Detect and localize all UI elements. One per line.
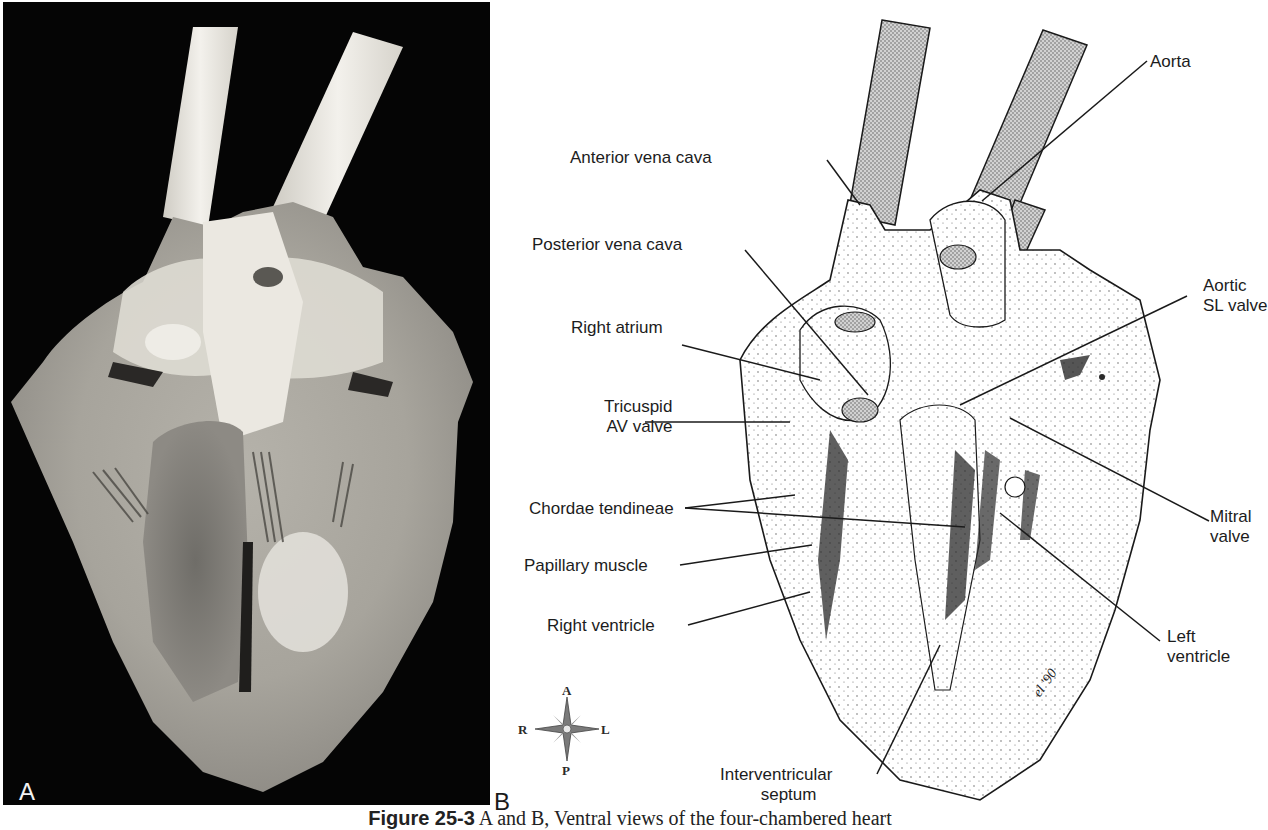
label-interventricular-septum: Interventricular septum (720, 765, 832, 805)
label-mitral-line1: Mitral (1210, 507, 1252, 527)
label-aortic-line1: Aortic (1203, 276, 1268, 296)
label-right-atrium: Right atrium (571, 318, 663, 338)
label-interventricular-line2: septum (720, 785, 832, 805)
drawing-panel-b: Anterior vena cava Posterior vena cava R… (490, 0, 1260, 805)
label-papillary-muscle: Papillary muscle (524, 556, 648, 576)
photo-panel-a: A (3, 2, 490, 805)
label-posterior-vena-cava: Posterior vena cava (532, 235, 682, 255)
label-mitral-line2: valve (1210, 527, 1252, 547)
compass-anterior: A (562, 683, 571, 699)
compass-star (535, 697, 599, 761)
label-aorta: Aorta (1150, 52, 1191, 72)
caption-figure-number: Figure 25-3 (368, 807, 475, 829)
label-anterior-vena-cava: Anterior vena cava (570, 148, 712, 168)
label-tricuspid-line1: Tricuspid (604, 397, 672, 417)
caption-text: A and B, Ventral views of the four-chamb… (475, 807, 892, 829)
panel-letter-a: A (19, 780, 35, 804)
label-aortic-line2: SL valve (1203, 296, 1268, 316)
heart-photo-illustration (3, 2, 490, 805)
label-tricuspid-line2: AV valve (604, 417, 672, 437)
label-aortic-sl-valve: Aortic SL valve (1203, 276, 1268, 316)
figure-caption: Figure 25-3 A and B, Ventral views of th… (0, 806, 1260, 830)
label-left-ventricle-line2: ventricle (1167, 647, 1230, 667)
label-right-ventricle: Right ventricle (547, 616, 655, 636)
compass-left: L (601, 722, 610, 738)
label-tricuspid-valve: Tricuspid AV valve (604, 397, 672, 437)
label-interventricular-line1: Interventricular (720, 765, 832, 785)
label-mitral-valve: Mitral valve (1210, 507, 1252, 547)
label-left-ventricle: Left ventricle (1167, 627, 1230, 667)
label-chordae-tendineae: Chordae tendineae (529, 499, 674, 519)
compass-posterior: P (562, 763, 570, 779)
compass-right: R (518, 722, 527, 738)
label-left-ventricle-line1: Left (1167, 627, 1230, 647)
